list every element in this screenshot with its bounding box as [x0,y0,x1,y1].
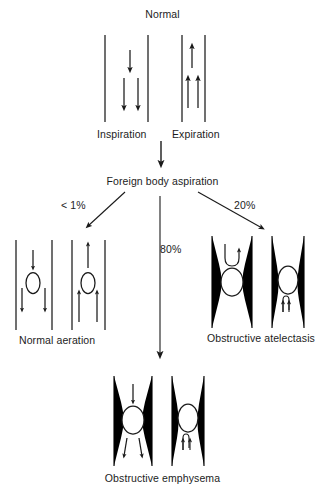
figure-normal-aeration-expiration [72,240,105,330]
arrow-branch-right [198,192,262,228]
diagram-canvas: Normal Inspiration Expiration Foreign bo… [0,0,325,498]
figure-atelectasis-inspiration [212,236,252,328]
figure-emphysema-expiration [172,376,204,466]
figure-emphysema-inspiration [114,376,152,466]
diagram-vector-layer [0,0,325,498]
figure-inspiration-airway [105,35,148,122]
figure-atelectasis-expiration [272,236,304,328]
figure-expiration-airway [182,35,205,122]
figure-normal-aeration-inspiration [16,240,52,330]
arrow-branch-left [88,192,125,226]
